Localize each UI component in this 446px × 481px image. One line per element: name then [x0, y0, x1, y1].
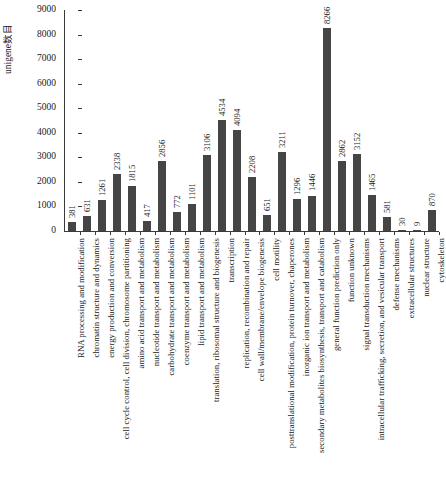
bar[interactable]: [83, 216, 91, 231]
x-axis-category-label: translation, ribosomal structure and bio…: [211, 238, 221, 478]
bar-slot: 3211: [274, 10, 289, 231]
bar-value-label: 9: [412, 186, 421, 226]
y-axis-tick-label: 2000: [37, 177, 56, 187]
bar[interactable]: [323, 28, 331, 231]
bar[interactable]: [413, 230, 421, 231]
bar-slot: 2862: [334, 10, 349, 231]
x-axis-category-label: function unknown: [346, 238, 356, 478]
x-axis-tick-mark: [289, 232, 290, 235]
x-axis-category-label: signal transduction mechanisms: [361, 238, 371, 478]
x-axis-tick-mark: [185, 232, 186, 235]
y-axis-tick-label: 5000: [37, 103, 56, 113]
bar-value-label: 1465: [367, 151, 376, 191]
x-axis-category-label: posttranslational modification, protein …: [286, 238, 296, 478]
x-axis-category-label: replication, recombination and repair: [241, 238, 251, 478]
x-axis-tick-mark: [125, 232, 126, 235]
bar-value-label: 1296: [292, 155, 301, 195]
x-axis-category-label: amino acid transport and metabolism: [136, 238, 146, 478]
y-axis-tick-label: 6000: [37, 79, 56, 89]
bar-value-label: 1261: [98, 156, 107, 196]
bar-slot: 417: [140, 10, 155, 231]
bar-slot: 2338: [110, 10, 125, 231]
x-axis-tick-mark: [409, 232, 410, 235]
bar-slot: 9: [409, 10, 424, 231]
bar-value-label: 8266: [322, 0, 331, 24]
bar-slot: 1261: [95, 10, 110, 231]
bar[interactable]: [158, 161, 166, 231]
bar[interactable]: [353, 154, 361, 231]
bar[interactable]: [218, 120, 226, 231]
bar-slot: 1815: [125, 10, 140, 231]
bar-value-label: 3211: [277, 108, 286, 148]
bar-slot: 631: [80, 10, 95, 231]
x-axis-category-label: RNA processing and modification: [76, 238, 86, 478]
bar-slot: 2208: [245, 10, 260, 231]
x-axis-category-label: inorganic ion transport and metabolism: [301, 238, 311, 478]
bar-slot: 1446: [304, 10, 319, 231]
bar-slot: 3106: [200, 10, 215, 231]
y-axis-tick-label: 4000: [37, 128, 56, 138]
bar[interactable]: [293, 199, 301, 231]
bar[interactable]: [338, 161, 346, 231]
bar-value-label: 581: [382, 173, 391, 213]
x-axis-tick-mark: [319, 232, 320, 235]
x-axis-tick-mark: [394, 232, 395, 235]
bar-slot: 30: [394, 10, 409, 231]
bar[interactable]: [368, 195, 376, 231]
bar-value-label: 772: [173, 168, 182, 208]
bar-slot: 870: [424, 10, 439, 231]
bar[interactable]: [233, 130, 241, 231]
bar-slot: 651: [259, 10, 274, 231]
bar[interactable]: [128, 186, 136, 231]
x-axis-tick-mark: [155, 232, 156, 235]
bar-value-label: 1446: [307, 151, 316, 191]
bar[interactable]: [428, 210, 436, 231]
x-axis-tick-mark: [200, 232, 201, 235]
bar[interactable]: [173, 212, 181, 231]
bar[interactable]: [308, 196, 316, 232]
y-axis-tick-label: 7000: [37, 54, 56, 64]
x-axis-category-label: secondary metabolites biosynthesis, tran…: [316, 238, 326, 478]
bar[interactable]: [398, 230, 406, 231]
y-axis-tick-label: 1000: [37, 201, 56, 211]
x-axis-tick-mark: [379, 232, 380, 235]
x-axis-tick-mark: [439, 232, 440, 235]
bar[interactable]: [113, 174, 121, 231]
x-axis-category-label: extracellular structures: [406, 238, 416, 478]
bar-slot: 772: [170, 10, 185, 231]
bar-value-label: 870: [427, 166, 436, 206]
bar[interactable]: [248, 177, 256, 231]
bar-value-label: 3106: [203, 111, 212, 151]
x-axis-tick-mark: [170, 232, 171, 235]
x-axis-category-label: cell wall/membrane/envelope biogenesis: [256, 238, 266, 478]
y-axis-title: unigene数目: [0, 0, 16, 74]
bar-value-label: 1101: [188, 160, 197, 200]
x-axis-category-label: nuclear structure: [421, 238, 431, 478]
x-axis-category-label: nucleotide transport and metabolism: [151, 238, 161, 478]
bar[interactable]: [98, 200, 106, 231]
bar-value-label: 2856: [158, 117, 167, 157]
bar[interactable]: [263, 215, 271, 231]
bar-value-label: 2862: [337, 117, 346, 157]
bar[interactable]: [68, 222, 76, 231]
bar[interactable]: [143, 221, 151, 231]
bar-value-label: 3152: [352, 110, 361, 150]
x-axis-category-labels: RNA processing and modificationchromatin…: [65, 238, 439, 478]
x-axis-category-label: cell cycle control, cell division, chrom…: [121, 238, 131, 478]
x-axis-tick-mark: [110, 232, 111, 235]
y-axis-tick-label: 0: [51, 226, 56, 236]
bar-slot: 3152: [349, 10, 364, 231]
bar[interactable]: [278, 152, 286, 231]
bar[interactable]: [188, 204, 196, 231]
bar[interactable]: [203, 155, 211, 231]
x-axis-category-label: cytoskeleton: [436, 238, 446, 478]
x-axis-category-label: coenzyme transport and metabolism: [181, 238, 191, 478]
bar-slot: 1101: [185, 10, 200, 231]
bar-slot: 2856: [155, 10, 170, 231]
x-axis-tick-mark: [334, 232, 335, 235]
bar[interactable]: [383, 217, 391, 231]
x-axis-tick-mark: [364, 232, 365, 235]
x-axis-tick-mark: [140, 232, 141, 235]
bar-value-label: 417: [143, 177, 152, 217]
